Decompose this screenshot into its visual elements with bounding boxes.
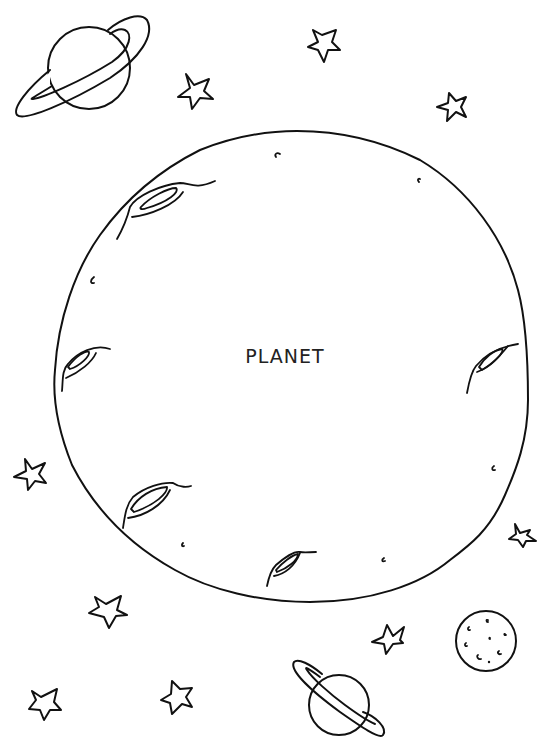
mark-3 <box>91 277 94 283</box>
star-7 <box>372 625 404 654</box>
star-1 <box>308 30 340 62</box>
small-moon <box>456 611 516 671</box>
crater-3 <box>467 344 518 393</box>
coloring-page-canvas <box>0 0 553 750</box>
star-4 <box>14 459 46 490</box>
planet-label: PLANET <box>230 345 340 367</box>
star-6 <box>89 596 127 628</box>
crater-1 <box>117 181 215 239</box>
mark-5 <box>182 543 184 546</box>
star-8 <box>29 689 61 720</box>
star-2 <box>178 74 213 109</box>
crater-5 <box>267 552 316 586</box>
star-3 <box>437 93 466 121</box>
crater-2 <box>62 347 110 391</box>
mark-4 <box>492 466 495 470</box>
crater-4 <box>123 483 191 528</box>
mark-1 <box>275 153 280 157</box>
ringed-planet-top-left <box>16 16 149 116</box>
mark-2 <box>418 179 420 182</box>
mark-6 <box>382 558 385 561</box>
ringed-planet-bottom <box>293 661 384 736</box>
star-5 <box>509 524 536 547</box>
star-9 <box>161 681 192 714</box>
